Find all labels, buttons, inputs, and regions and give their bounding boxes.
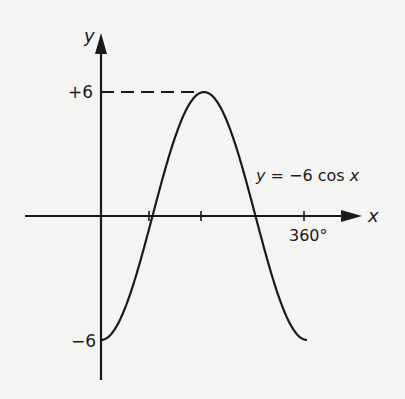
x-axis-label: x [367,205,379,226]
equation-label: y = −6 cos x [255,166,360,185]
x-axis-arrow-icon [341,210,362,222]
y-axis-label: y [83,25,95,46]
minus6-label: −6 [71,331,96,351]
chart-canvas: y x +6 −6 360° y = −6 cos x [0,0,405,399]
y-axis-arrow-icon [95,33,107,54]
x360-label: 360° [289,226,328,245]
cosine-graph: y x +6 −6 360° y = −6 cos x [0,0,405,399]
plus6-label: +6 [68,82,93,102]
